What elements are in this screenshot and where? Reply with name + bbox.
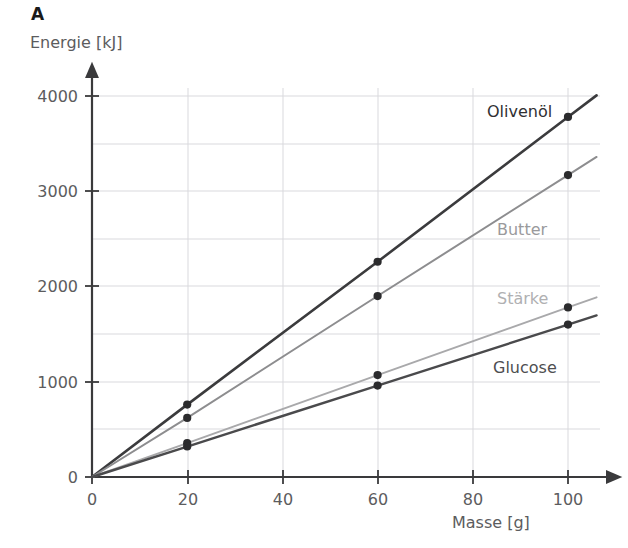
data-point <box>183 442 191 450</box>
x-axis-tick-labels: 0 20 40 60 80 100 <box>87 490 583 509</box>
series-label-staerke: Stärke <box>497 289 548 308</box>
series-label-glucose: Glucose <box>493 358 557 377</box>
grid-vertical <box>188 88 568 477</box>
series-line-staerke <box>92 297 597 477</box>
series-line-glucose <box>92 315 597 477</box>
data-point <box>374 292 382 300</box>
data-point <box>564 303 572 311</box>
x-tick-label: 80 <box>463 490 483 509</box>
data-point <box>374 371 382 379</box>
data-point <box>374 381 382 389</box>
y-tick-label: 2000 <box>37 277 78 296</box>
x-tick-label: 0 <box>87 490 97 509</box>
x-tick-label: 100 <box>553 490 584 509</box>
data-point <box>564 113 572 121</box>
y-tick-label: 4000 <box>37 87 78 106</box>
series-glucose <box>92 315 597 477</box>
figure-panel-a: A Energie [kJ] Masse [g] <box>0 0 628 548</box>
x-tick-label: 60 <box>368 490 388 509</box>
y-tick-label: 3000 <box>37 182 78 201</box>
x-tick-label: 20 <box>178 490 198 509</box>
data-point <box>564 321 572 329</box>
y-axis-tick-labels: 0 1000 2000 3000 4000 <box>37 87 78 487</box>
grid-horizontal <box>92 96 600 429</box>
data-point <box>183 401 191 409</box>
y-tick-label: 1000 <box>37 373 78 392</box>
data-point <box>374 258 382 266</box>
y-tick-label: 0 <box>68 468 78 487</box>
series-staerke <box>92 297 597 477</box>
chart-plot: 0 1000 2000 3000 4000 0 20 40 60 80 100 … <box>0 0 628 548</box>
series-label-butter: Butter <box>497 220 548 239</box>
x-tick-label: 40 <box>273 490 293 509</box>
series-label-olivenoel: Olivenöl <box>487 102 552 121</box>
data-point <box>183 414 191 422</box>
data-point <box>564 171 572 179</box>
